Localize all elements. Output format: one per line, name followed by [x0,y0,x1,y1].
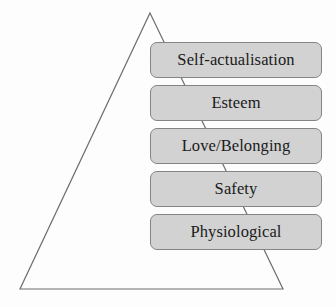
level-box-esteem[interactable]: Esteem [150,85,322,121]
level-box-safety[interactable]: Safety [150,171,322,207]
level-box-self-actualisation[interactable]: Self-actualisation [150,42,322,78]
level-label-love-belonging: Love/Belonging [182,138,291,155]
level-box-physiological[interactable]: Physiological [150,214,322,250]
level-box-love-belonging[interactable]: Love/Belonging [150,128,322,164]
level-label-physiological: Physiological [190,224,281,241]
level-label-self-actualisation: Self-actualisation [177,52,294,69]
maslow-hierarchy-diagram: Self-actualisation Esteem Love/Belonging… [0,0,336,307]
hierarchy-level-stack: Self-actualisation Esteem Love/Belonging… [150,42,322,250]
level-label-esteem: Esteem [211,95,260,112]
level-label-safety: Safety [215,181,258,198]
